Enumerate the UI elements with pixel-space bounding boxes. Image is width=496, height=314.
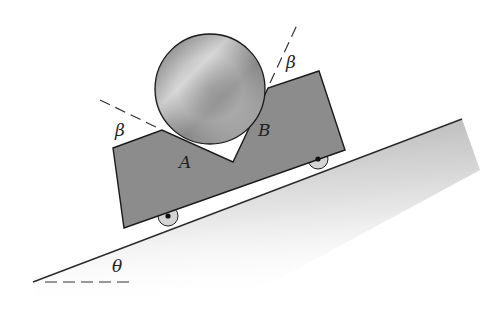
contact-a-label: A (177, 152, 191, 172)
angle-beta-left-label: β (114, 120, 125, 140)
diagram-canvas: β β A B θ (0, 0, 496, 314)
normal-line-a-dashed (100, 100, 158, 128)
axle-left (165, 213, 170, 218)
cylinder-sheen (156, 35, 264, 143)
axle-right (315, 156, 320, 161)
cart-cylinder-incline-diagram: β β A B θ (0, 0, 496, 314)
angle-beta-right-label: β (285, 52, 296, 72)
incline-angle-theta-label: θ (112, 256, 122, 276)
contact-b-label: B (257, 120, 271, 140)
